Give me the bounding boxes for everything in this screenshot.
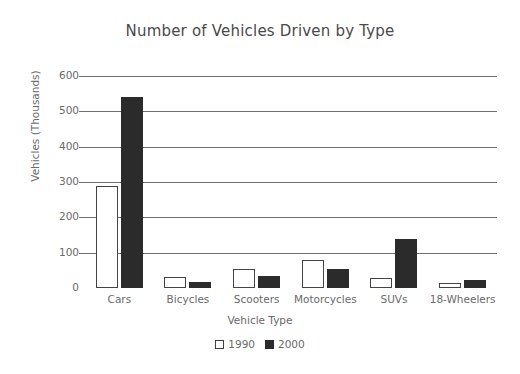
y-axis-tick-label: 0 (45, 282, 79, 293)
bar-group (154, 76, 223, 288)
chart-legend: 19902000 (0, 338, 520, 350)
y-axis-tick-mark (79, 217, 85, 218)
y-axis-tick-label: 200 (45, 211, 79, 222)
bar-18-wheelers-1990[interactable] (439, 283, 461, 288)
bar-scooters-2000[interactable] (258, 276, 280, 288)
bar-bicycles-2000[interactable] (189, 282, 211, 288)
x-axis-tick-label: Bicycles (154, 293, 223, 305)
y-axis-tick-label: 100 (45, 247, 79, 258)
y-axis-tick-label: 600 (45, 70, 79, 81)
bar-chart: Number of Vehicles Driven by Type Vehicl… (0, 0, 520, 374)
bar-scooters-1990[interactable] (233, 269, 255, 288)
x-axis-tick-label: Scooters (222, 293, 291, 305)
x-axis-title: Vehicle Type (0, 314, 520, 326)
bar-suvs-1990[interactable] (370, 278, 392, 288)
y-axis-tick-label: 400 (45, 141, 79, 152)
x-axis-tick-label: 18-Wheelers (428, 293, 497, 305)
y-axis-tick-label: 500 (45, 105, 79, 116)
y-axis-tick-mark (79, 76, 85, 77)
bar-bicycles-1990[interactable] (164, 277, 186, 288)
y-axis-tick-labels: 0100200300400500600 (39, 76, 79, 288)
y-axis-tick-label: 300 (45, 176, 79, 187)
y-axis-tick-mark (79, 111, 85, 112)
legend-label: 1990 (228, 338, 255, 350)
bar-18-wheelers-2000[interactable] (464, 280, 486, 288)
legend-entry-2000[interactable]: 2000 (265, 338, 305, 350)
y-axis-tick-mark (79, 147, 85, 148)
y-axis-tick-mark (79, 182, 85, 183)
bar-suvs-2000[interactable] (395, 239, 417, 288)
bar-group (85, 76, 154, 288)
open-square-icon (215, 340, 224, 349)
bar-cars-2000[interactable] (121, 97, 143, 288)
chart-title: Number of Vehicles Driven by Type (0, 22, 520, 40)
y-axis-tick-mark (79, 253, 85, 254)
plot-area (85, 76, 497, 288)
x-axis-tick-label: Motorcycles (291, 293, 360, 305)
bar-group (222, 76, 291, 288)
bar-group (360, 76, 429, 288)
bar-group (291, 76, 360, 288)
x-axis-tick-labels: CarsBicyclesScootersMotorcyclesSUVs18-Wh… (85, 293, 497, 309)
x-axis-tick-label: Cars (85, 293, 154, 305)
bar-motorcycles-2000[interactable] (327, 269, 349, 288)
x-axis-tick-label: SUVs (360, 293, 429, 305)
legend-entry-1990[interactable]: 1990 (215, 338, 255, 350)
legend-label: 2000 (278, 338, 305, 350)
bar-cars-1990[interactable] (96, 186, 118, 288)
filled-square-icon (265, 340, 274, 349)
bar-motorcycles-1990[interactable] (302, 260, 324, 288)
bar-group (428, 76, 497, 288)
